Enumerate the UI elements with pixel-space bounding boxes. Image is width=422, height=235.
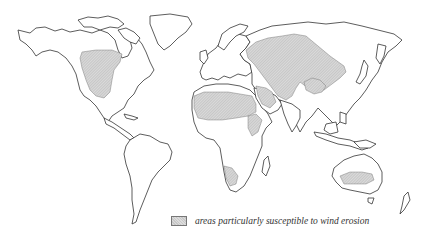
new-zealand: [400, 192, 410, 214]
arctic-islands: [78, 16, 124, 30]
legend-label: areas particularly susceptible to wind e…: [195, 216, 369, 226]
caribbean-islands: [124, 114, 138, 120]
philippines: [340, 112, 346, 124]
baffin-island: [118, 28, 140, 44]
greenland: [150, 14, 192, 50]
central-america: [104, 118, 134, 140]
map-legend: areas particularly susceptible to wind e…: [171, 216, 369, 226]
madagascar: [262, 156, 270, 176]
erosion-area-sahara: [194, 92, 256, 120]
world-map: [0, 0, 422, 235]
south-america: [124, 134, 172, 224]
tasmania: [368, 198, 374, 204]
borneo: [324, 122, 338, 134]
legend-swatch: [171, 216, 187, 226]
erosion-area-australia: [340, 172, 374, 184]
